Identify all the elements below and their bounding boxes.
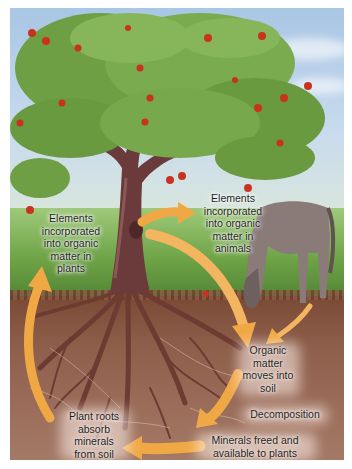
label-roots-absorb: Plant roots absorb minerals from soil: [56, 410, 132, 460]
label-plants: Elements incorporated into organic matte…: [30, 212, 112, 275]
label-line: soil: [232, 382, 304, 395]
foliage-icon: [10, 13, 325, 198]
label-line: incorporated: [30, 225, 112, 238]
label-line: into organic: [192, 217, 274, 230]
label-line: plants: [30, 262, 112, 275]
label-line: matter: [232, 357, 304, 370]
label-line: Organic: [232, 344, 304, 357]
label-line: Decomposition: [240, 408, 330, 421]
label-line: animals: [192, 242, 274, 255]
label-line: absorb: [56, 423, 132, 436]
label-line: from soil: [56, 448, 132, 461]
label-line: available to plants: [190, 447, 320, 460]
label-line: moves into: [232, 369, 304, 382]
label-line: Minerals freed and: [190, 434, 320, 447]
label-decomposition: Decomposition: [240, 408, 330, 421]
label-animals: Elements incorporated into organic matte…: [192, 192, 274, 255]
label-line: matter in: [192, 230, 274, 243]
label-line: Plant roots: [56, 410, 132, 423]
label-line: into organic: [30, 237, 112, 250]
label-minerals-freed: Minerals freed and available to plants: [190, 434, 320, 459]
label-line: minerals: [56, 435, 132, 448]
label-line: matter in: [30, 250, 112, 263]
label-line: Elements: [192, 192, 274, 205]
diagram-frame: Elements incorporated into organic matte…: [10, 8, 344, 460]
label-line: Elements: [30, 212, 112, 225]
label-line: incorporated: [192, 205, 274, 218]
label-organic-to-soil: Organic matter moves into soil: [232, 344, 304, 394]
